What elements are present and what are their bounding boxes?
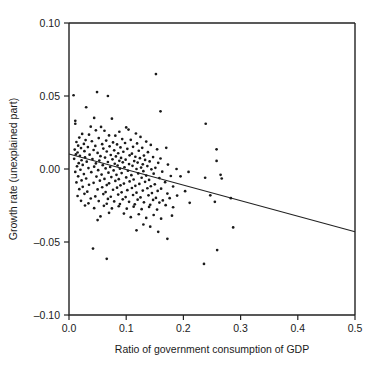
data-point [139, 157, 142, 160]
x-tick-label: 0.0 [62, 322, 77, 334]
data-point [93, 207, 96, 210]
data-point [123, 182, 126, 185]
data-point [114, 134, 117, 137]
data-point [83, 150, 86, 153]
data-point [121, 198, 124, 201]
data-point [105, 202, 108, 205]
data-point [157, 230, 160, 233]
data-point [101, 143, 104, 146]
data-point [108, 145, 111, 148]
y-tick-label: –0.10 [34, 309, 60, 321]
data-point [96, 91, 99, 94]
data-point [118, 159, 121, 162]
data-point [120, 172, 123, 175]
y-tick-label: 0.00 [40, 163, 61, 175]
data-point [83, 192, 86, 195]
data-point [124, 142, 127, 145]
data-point [83, 173, 86, 176]
data-point [113, 200, 116, 203]
data-point [84, 204, 87, 207]
data-point [129, 216, 132, 219]
data-point [94, 195, 97, 198]
data-point [129, 138, 132, 141]
data-point [154, 166, 157, 169]
data-point [137, 149, 140, 152]
data-point [141, 189, 144, 192]
data-point [80, 159, 83, 162]
data-point [188, 202, 191, 205]
data-point [87, 202, 90, 205]
data-point [132, 205, 135, 208]
data-point [135, 132, 138, 135]
data-point [147, 151, 150, 154]
data-point [74, 122, 77, 125]
data-point [146, 187, 149, 190]
data-point [80, 199, 83, 202]
data-point [116, 186, 119, 189]
data-point [204, 122, 207, 125]
data-point [121, 161, 124, 164]
data-point [156, 208, 159, 211]
data-point [139, 136, 142, 139]
data-point [122, 150, 125, 153]
data-point [117, 193, 120, 196]
data-point [140, 208, 143, 211]
data-point [112, 188, 115, 191]
data-point [83, 143, 86, 146]
data-point [103, 178, 106, 181]
data-point [78, 188, 81, 191]
data-point [77, 175, 80, 178]
data-point [155, 73, 158, 76]
data-point [150, 168, 153, 171]
data-point [77, 144, 80, 147]
data-point [136, 142, 139, 145]
data-point [108, 134, 111, 137]
data-point [128, 154, 131, 157]
x-tick-label: 0.3 [233, 322, 248, 334]
data-point [76, 165, 79, 168]
data-point [131, 187, 134, 190]
data-point [171, 214, 174, 217]
data-point [74, 119, 77, 122]
plot-canvas: 0.00.10.20.30.40.5 0.100.050.00–0.05–0.1… [0, 0, 376, 369]
data-point [119, 146, 122, 149]
data-point [141, 146, 144, 149]
data-point [164, 204, 167, 207]
data-point [121, 138, 124, 141]
data-point [87, 146, 90, 149]
data-point [116, 143, 119, 146]
data-point [104, 191, 107, 194]
data-point [111, 117, 114, 120]
data-point [92, 247, 95, 250]
data-point [89, 125, 92, 128]
data-point [131, 164, 134, 167]
data-point [85, 106, 88, 109]
data-point [113, 162, 116, 165]
data-point [88, 133, 91, 136]
data-point [135, 191, 138, 194]
data-point [124, 158, 127, 161]
data-point [79, 168, 82, 171]
data-point [166, 192, 169, 195]
data-point [215, 160, 218, 163]
data-point [133, 160, 136, 163]
data-point [136, 161, 139, 164]
data-point [135, 168, 138, 171]
data-point [148, 160, 151, 163]
data-point [160, 217, 163, 220]
data-point [232, 226, 235, 229]
data-point [107, 198, 110, 201]
data-point [107, 171, 110, 174]
data-point [220, 177, 223, 180]
data-point [135, 229, 138, 232]
data-point [126, 189, 129, 192]
data-point [97, 169, 100, 172]
data-point [169, 175, 172, 178]
data-point [152, 199, 155, 202]
data-point [126, 148, 129, 151]
data-point [108, 211, 111, 214]
data-point [88, 153, 91, 156]
data-point [156, 190, 159, 193]
data-point [149, 144, 152, 147]
data-point [110, 176, 113, 179]
